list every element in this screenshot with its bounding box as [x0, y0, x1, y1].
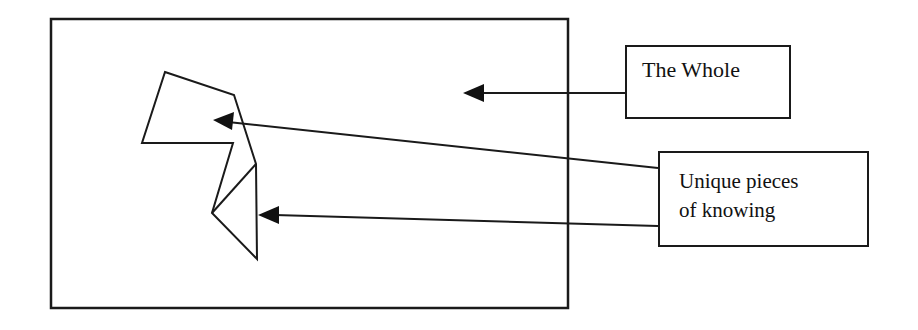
unique-pieces-label-box: Unique pieces of knowing	[658, 151, 869, 247]
arrowhead-icon	[258, 206, 279, 224]
unique-pieces-label-line1: Unique pieces	[679, 167, 867, 196]
arrowhead-icon	[463, 84, 484, 102]
knowing-piece-polygon	[142, 72, 257, 259]
the-whole-label-box: The Whole	[625, 45, 791, 119]
arrow-unique-upper	[213, 112, 658, 168]
arrow-unique-lower	[258, 206, 658, 226]
arrowhead-icon	[213, 112, 234, 130]
whole-rectangle	[51, 19, 568, 308]
the-whole-label: The Whole	[642, 57, 740, 82]
arrow-whole	[463, 84, 625, 102]
unique-pieces-label-line2: of knowing	[679, 196, 867, 225]
